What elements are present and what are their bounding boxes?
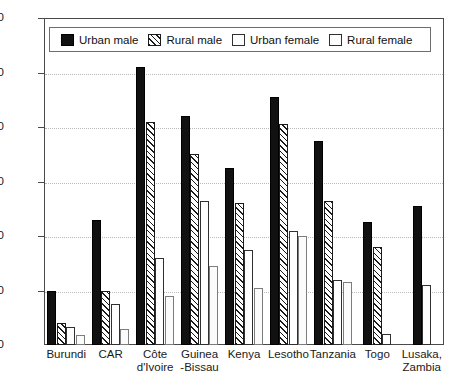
bar-urban-male <box>413 206 422 345</box>
bar-rural-female <box>120 329 129 345</box>
bar-urban-female <box>200 201 209 345</box>
x-tick-label-line1: Lesotho <box>268 348 309 360</box>
bar-urban-male <box>225 168 234 345</box>
legend-label: Urban female <box>250 34 319 46</box>
x-tick-label: Lusaka,Zambia <box>394 348 450 374</box>
bar-group <box>88 18 132 345</box>
bar-urban-female <box>289 231 298 345</box>
bar-rural-female <box>298 236 307 345</box>
bar-urban-female <box>66 327 75 345</box>
bar-rural-female <box>165 296 174 345</box>
bar-rural-male <box>190 154 199 345</box>
legend-swatch-rural-female <box>329 34 342 46</box>
bar-urban-female <box>333 280 342 345</box>
x-tick-label-line1: CAR <box>99 348 123 360</box>
y-tick-label: 20 <box>0 230 4 242</box>
y-tick-label: 60 <box>0 12 4 24</box>
bar-rural-male <box>279 124 288 345</box>
legend-label: Urban male <box>79 34 138 46</box>
legend-swatch-urban-female <box>232 34 245 46</box>
x-tick-label-line1: Burundi <box>46 348 86 360</box>
bar-group <box>266 18 310 345</box>
legend-item: Rural female <box>329 34 412 46</box>
y-tick-label: 40 <box>0 121 4 133</box>
bar-group <box>400 18 444 345</box>
bar-groups <box>44 18 444 345</box>
bar-rural-female <box>76 335 85 345</box>
bar-urban-male <box>314 141 323 345</box>
x-tick-label-line1: Guinea <box>181 348 218 360</box>
bar-urban-female <box>382 334 391 345</box>
bar-rural-male <box>57 323 66 345</box>
bar-urban-male <box>181 116 190 345</box>
x-tick-label-line1: Côte <box>143 348 167 360</box>
bar-group <box>355 18 399 345</box>
legend-swatch-urban-male <box>61 34 74 46</box>
bar-chart: 0102030405060 BurundiCARCôted'IvoireGuin… <box>0 0 456 390</box>
bar-rural-female <box>254 288 263 345</box>
x-tick-label-line2: Zambia <box>394 361 450 374</box>
bar-rural-male <box>146 122 155 345</box>
y-tick-label: 50 <box>0 67 4 79</box>
bar-group <box>177 18 221 345</box>
bar-group <box>133 18 177 345</box>
bar-urban-male <box>136 67 145 345</box>
bar-urban-male <box>270 97 279 345</box>
bar-group <box>222 18 266 345</box>
bar-rural-male <box>324 201 333 345</box>
legend-swatch-rural-male <box>148 34 161 46</box>
x-tick-label-line1: Togo <box>365 348 390 360</box>
bar-rural-male <box>101 291 110 346</box>
bar-urban-female <box>244 250 253 345</box>
bar-rural-female <box>209 266 218 345</box>
bar-group <box>311 18 355 345</box>
bar-rural-male <box>373 247 382 345</box>
y-tick-label: 0 <box>0 339 4 351</box>
x-tick-label-line1: Kenya <box>228 348 261 360</box>
bar-urban-male <box>363 222 372 345</box>
bar-group <box>44 18 88 345</box>
bar-rural-female <box>343 282 352 345</box>
bar-urban-female <box>155 258 164 345</box>
bar-urban-male <box>92 220 101 345</box>
x-axis: BurundiCARCôted'IvoireGuinea-BissauKenya… <box>44 348 444 390</box>
bar-urban-male <box>47 291 56 346</box>
bar-urban-female <box>111 304 120 345</box>
bar-urban-female <box>422 285 431 345</box>
legend-item: Urban male <box>61 34 138 46</box>
chart-legend: Urban maleRural maleUrban femaleRural fe… <box>49 27 431 52</box>
x-tick-label-line1: Lusaka, <box>402 348 442 360</box>
x-tick-label-line2: -Bissau <box>171 361 227 374</box>
legend-item: Rural male <box>148 34 222 46</box>
legend-label: Rural female <box>347 34 412 46</box>
legend-label: Rural male <box>166 34 222 46</box>
y-tick-label: 10 <box>0 285 4 297</box>
bar-rural-male <box>235 203 244 345</box>
y-tick-label: 30 <box>0 176 4 188</box>
legend-item: Urban female <box>232 34 319 46</box>
